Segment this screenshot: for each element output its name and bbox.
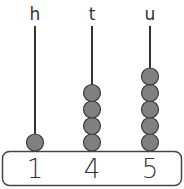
bead — [84, 101, 101, 118]
digit-tens: 4 — [84, 156, 101, 182]
bead — [142, 68, 159, 85]
bead — [142, 85, 159, 102]
digit-hundreds: 1 — [27, 156, 44, 182]
bead — [84, 134, 101, 151]
column-label-hundreds: h — [30, 6, 41, 23]
digit-units: 5 — [142, 156, 159, 182]
bead — [27, 134, 44, 151]
bead — [84, 85, 101, 102]
column-label-tens: t — [89, 6, 96, 23]
bead — [84, 118, 101, 135]
bead — [142, 101, 159, 118]
column-label-units: u — [145, 6, 156, 23]
abacus-diagram: h t u 1 4 5 — [0, 0, 184, 189]
bead — [142, 134, 159, 151]
bead — [142, 118, 159, 135]
